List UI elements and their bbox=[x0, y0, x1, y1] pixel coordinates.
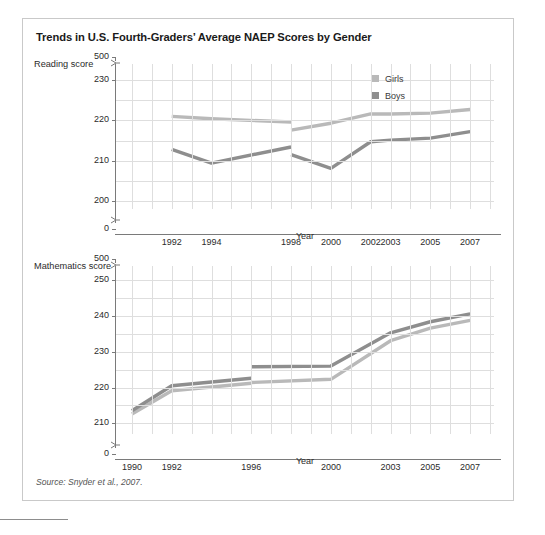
gridline-vertical bbox=[351, 64, 352, 209]
reading-x-axis-title: Year bbox=[116, 231, 494, 241]
gridline-vertical bbox=[351, 266, 352, 434]
legend-swatch-boys-icon bbox=[372, 92, 379, 99]
gridline-vertical bbox=[490, 266, 491, 434]
gridline-vertical bbox=[430, 266, 431, 434]
gridline-vertical bbox=[371, 266, 372, 434]
y-tick-mark bbox=[112, 229, 116, 230]
mathematics-plot-area bbox=[116, 266, 494, 434]
gridline-horizontal bbox=[116, 181, 494, 182]
gridline-horizontal bbox=[116, 423, 494, 424]
gridline-vertical bbox=[391, 266, 392, 434]
gridline-vertical bbox=[251, 64, 252, 209]
gridline-horizontal bbox=[116, 120, 494, 121]
gridline-vertical bbox=[192, 64, 193, 209]
gridline-vertical bbox=[172, 266, 173, 434]
gridline-horizontal bbox=[116, 370, 494, 371]
gridline-vertical bbox=[212, 266, 213, 434]
axis-break-marker bbox=[110, 215, 121, 226]
figure-container: Trends in U.S. Fourth-Graders’ Average N… bbox=[22, 18, 514, 501]
y-tick-label: 200 bbox=[71, 195, 109, 205]
gridline-vertical bbox=[311, 64, 312, 209]
gridline-horizontal bbox=[116, 405, 494, 406]
y-tick-label: 0 bbox=[71, 223, 109, 233]
gridline-vertical bbox=[152, 266, 153, 434]
y-tick-label: 0 bbox=[71, 448, 109, 458]
gridline-vertical bbox=[450, 64, 451, 209]
gridline-vertical bbox=[470, 64, 471, 209]
gridline-vertical bbox=[450, 266, 451, 434]
gridline-vertical bbox=[271, 266, 272, 434]
legend-item-boys: Boys bbox=[372, 86, 405, 99]
gridline-vertical bbox=[132, 64, 133, 209]
legend-label-girls: Girls bbox=[385, 74, 404, 84]
y-tick-label: 210 bbox=[71, 417, 109, 427]
figure-title: Trends in U.S. Fourth-Graders’ Average N… bbox=[36, 31, 372, 43]
y-tick-label: 230 bbox=[71, 346, 109, 356]
reading-series-svg bbox=[116, 64, 494, 209]
mathematics-series-svg bbox=[116, 266, 494, 434]
gridline-horizontal bbox=[116, 80, 494, 81]
gridline-vertical bbox=[192, 266, 193, 434]
gridline-vertical bbox=[291, 266, 292, 434]
gridline-vertical bbox=[271, 64, 272, 209]
legend-swatch-girls-icon bbox=[372, 75, 379, 82]
y-tick-label: 210 bbox=[71, 155, 109, 165]
gridline-vertical bbox=[291, 64, 292, 209]
y-tick-label: 220 bbox=[71, 382, 109, 392]
gridline-vertical bbox=[490, 64, 491, 209]
gridline-horizontal bbox=[116, 352, 494, 353]
gridline-horizontal bbox=[116, 201, 494, 202]
gridline-horizontal bbox=[116, 388, 494, 389]
chart-legend: Girls Boys bbox=[372, 69, 405, 103]
gridline-vertical bbox=[430, 64, 431, 209]
series-line-boys bbox=[291, 132, 470, 169]
gridline-vertical bbox=[251, 266, 252, 434]
gridline-horizontal bbox=[116, 141, 494, 142]
y-tick-label: 250 bbox=[71, 274, 109, 284]
gridline-horizontal bbox=[116, 100, 494, 101]
chart-panel-mathematics: Mathematics score 2102202302402505000 19… bbox=[23, 259, 513, 474]
gridline-vertical bbox=[212, 64, 213, 209]
axis-break-marker bbox=[110, 440, 121, 451]
reading-plot-area bbox=[116, 64, 494, 209]
gridline-vertical bbox=[231, 64, 232, 209]
gridline-vertical bbox=[410, 266, 411, 434]
footer-rule bbox=[0, 519, 68, 520]
gridline-vertical bbox=[410, 64, 411, 209]
y-tick-label: 220 bbox=[71, 114, 109, 124]
gridline-vertical bbox=[470, 266, 471, 434]
y-tick-label: 240 bbox=[71, 310, 109, 320]
gridline-horizontal bbox=[116, 280, 494, 281]
gridline-horizontal bbox=[116, 334, 494, 335]
gridline-vertical bbox=[152, 64, 153, 209]
y-tick-mark bbox=[112, 454, 116, 455]
y-tick-label: 230 bbox=[71, 74, 109, 84]
gridline-vertical bbox=[331, 266, 332, 434]
legend-item-girls: Girls bbox=[372, 69, 405, 82]
gridline-vertical bbox=[311, 266, 312, 434]
chart-panel-reading: Reading score 2002102202305000 199219941… bbox=[23, 57, 513, 247]
y-tick-label: 500 bbox=[71, 51, 109, 61]
mathematics-x-axis-title: Year bbox=[116, 456, 494, 466]
gridline-horizontal bbox=[116, 298, 494, 299]
legend-label-boys: Boys bbox=[385, 91, 405, 101]
gridline-vertical bbox=[231, 266, 232, 434]
y-tick-label: 500 bbox=[71, 253, 109, 263]
gridline-vertical bbox=[172, 64, 173, 209]
source-note: Source: Snyder et al., 2007. bbox=[36, 477, 143, 487]
gridline-vertical bbox=[132, 266, 133, 434]
gridline-vertical bbox=[331, 64, 332, 209]
gridline-horizontal bbox=[116, 161, 494, 162]
gridline-horizontal bbox=[116, 316, 494, 317]
